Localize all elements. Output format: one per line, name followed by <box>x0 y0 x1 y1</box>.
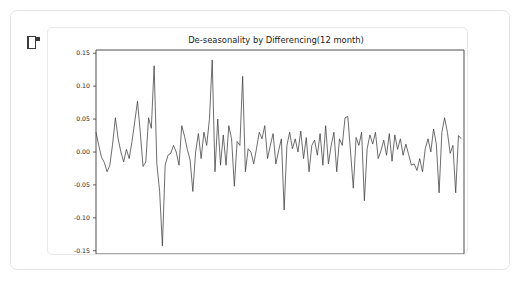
y-tick-label: 0.05 <box>76 115 90 122</box>
y-tick-label: -0.05 <box>74 181 90 188</box>
screenshot-root: De-seasonality by Differencing(12 month)… <box>0 0 528 288</box>
y-tick-label: -0.15 <box>74 247 90 254</box>
output-bracket-icon <box>27 36 41 50</box>
output-bracket-dot <box>36 37 40 41</box>
y-tick-label: 0.15 <box>76 49 90 56</box>
notebook-output-card: De-seasonality by Differencing(12 month)… <box>10 10 510 270</box>
chart-figure: De-seasonality by Differencing(12 month)… <box>48 28 468 255</box>
y-tick-label: 0.00 <box>76 148 90 155</box>
output-bracket-shape <box>27 36 36 49</box>
x-axis-ticks: 20406080100120140 <box>111 254 453 255</box>
chart-title: De-seasonality by Differencing(12 month) <box>188 35 364 45</box>
figure-card: De-seasonality by Differencing(12 month)… <box>47 27 468 255</box>
y-axis-ticks: -0.15-0.10-0.050.000.050.100.15 <box>74 49 96 253</box>
y-tick-label: 0.10 <box>76 82 90 89</box>
axis-frame <box>96 50 464 254</box>
series-line-differenced-series <box>96 60 461 246</box>
y-tick-label: -0.10 <box>74 214 90 221</box>
